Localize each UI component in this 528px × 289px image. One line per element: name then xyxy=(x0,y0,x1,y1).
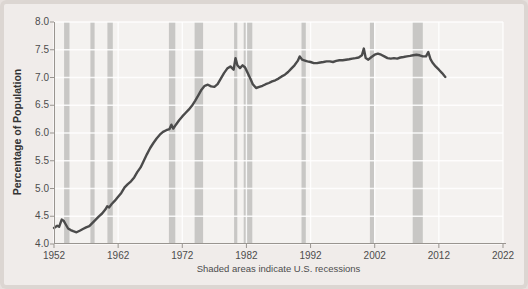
x-tick-label: 2002 xyxy=(355,250,395,262)
y-tick-label: 7.0 xyxy=(0,72,49,84)
x-tick-label: 1972 xyxy=(162,250,202,262)
y-tick-label: 6.0 xyxy=(0,127,49,139)
y-tick-label: 7.5 xyxy=(0,44,49,56)
line-chart xyxy=(54,22,503,244)
chart-frame: Percentage of Population Shaded areas in… xyxy=(0,0,528,289)
x-tick-label: 2012 xyxy=(419,250,459,262)
x-tick-label: 2022 xyxy=(483,250,523,262)
plot-area xyxy=(54,22,503,244)
y-tick-label: 4.5 xyxy=(0,210,49,222)
y-tick-label: 4.0 xyxy=(0,238,49,250)
x-tick-label: 1952 xyxy=(34,250,74,262)
y-tick-label: 8.0 xyxy=(0,16,49,28)
y-tick-label: 6.5 xyxy=(0,99,49,111)
y-tick-label: 5.5 xyxy=(0,155,49,167)
recession-note: Shaded areas indicate U.S. recessions xyxy=(54,263,503,274)
x-tick-label: 1982 xyxy=(226,250,266,262)
x-tick-label: 1962 xyxy=(98,250,138,262)
y-tick-label: 5.0 xyxy=(0,183,49,195)
x-tick-label: 1992 xyxy=(291,250,331,262)
